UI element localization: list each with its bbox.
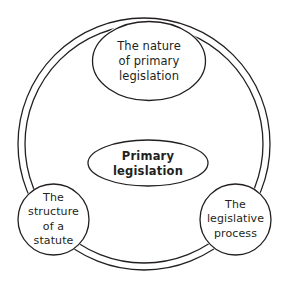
center-shape — [88, 140, 208, 186]
node-shape-bottom-left — [18, 184, 89, 255]
node-shape-top — [93, 22, 206, 101]
node-shape-bottom-right — [200, 184, 271, 255]
primary-legislation-cycle-diagram: The nature of primary legislation Primar… — [0, 0, 288, 286]
diagram-canvas — [0, 0, 288, 286]
